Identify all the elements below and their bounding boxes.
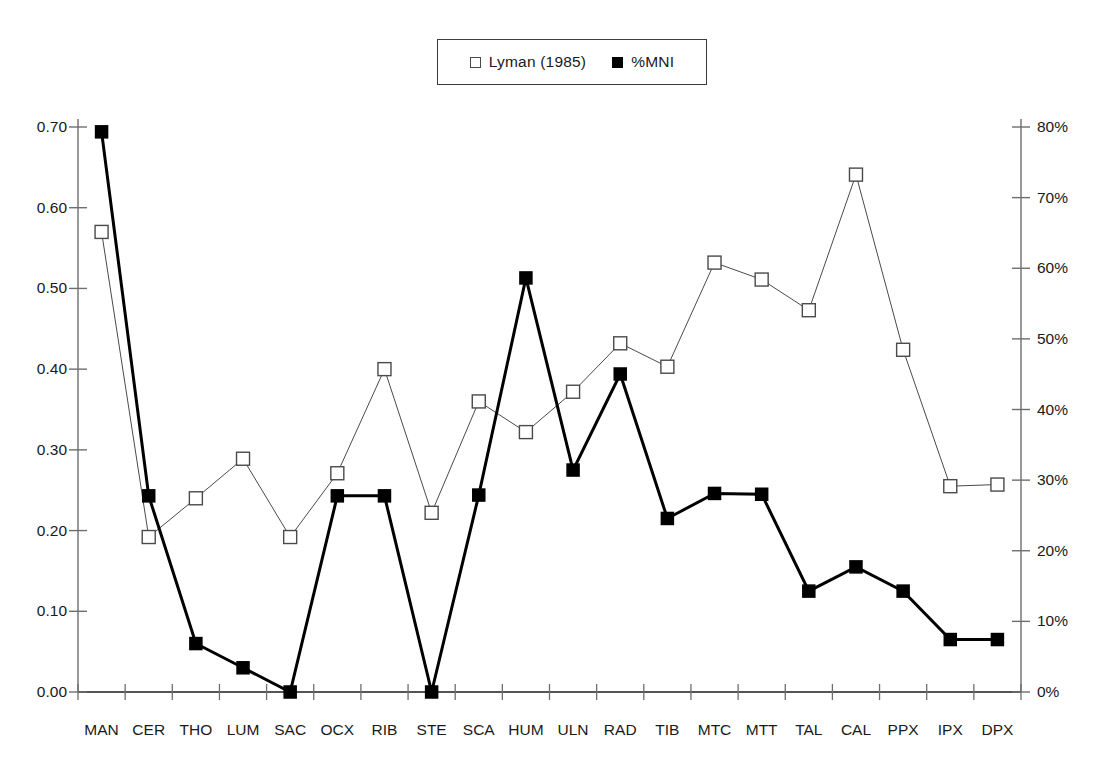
y-axis-right-ticklabel: 20% [1037, 543, 1097, 559]
filled-square-marker [331, 490, 343, 502]
y-axis-right-ticklabel: 0% [1037, 684, 1097, 700]
y-axis-right-ticklabel: 80% [1037, 119, 1097, 135]
open-square-marker [802, 304, 815, 317]
filled-square-marker [661, 512, 673, 524]
filled-square-marker [284, 686, 296, 698]
open-square-marker [425, 506, 438, 519]
series-layer [95, 126, 1004, 698]
filled-square-marker [991, 634, 1003, 646]
y-axis-left-ticklabel: 0.60 [5, 200, 67, 216]
y-axis-right-ticklabel: 30% [1037, 472, 1097, 488]
filled-square-marker [426, 686, 438, 698]
open-square-marker [661, 360, 674, 373]
filled-square-marker [756, 488, 768, 500]
open-square-marker [378, 363, 391, 376]
open-square-marker [284, 531, 297, 544]
plot-area [0, 0, 1105, 769]
open-square-marker [849, 168, 862, 181]
open-square-marker [567, 385, 580, 398]
open-square-marker [331, 467, 344, 480]
y-axis-left-ticklabel: 0.30 [5, 442, 67, 458]
open-square-marker [95, 225, 108, 238]
filled-square-marker [473, 489, 485, 501]
open-square-marker [897, 343, 910, 356]
open-square-marker [614, 337, 627, 350]
open-square-marker [944, 480, 957, 493]
open-square-marker [755, 273, 768, 286]
filled-square-marker [614, 368, 626, 380]
filled-square-marker [897, 585, 909, 597]
filled-square-marker [567, 464, 579, 476]
y-axis-left-ticklabel: 0.70 [5, 119, 67, 135]
chart-root: Lyman (1985) %MNI 0.000.100.200.300.400.… [0, 0, 1105, 769]
y-axis-right-ticklabel: 60% [1037, 260, 1097, 276]
open-square-marker [472, 395, 485, 408]
filled-square-marker [143, 490, 155, 502]
x-axis-category-label: DPX [969, 722, 1025, 738]
y-axis-right-ticklabel: 40% [1037, 402, 1097, 418]
filled-square-marker [944, 634, 956, 646]
series-lyman [95, 168, 1004, 543]
filled-square-marker [709, 487, 721, 499]
filled-square-marker [378, 490, 390, 502]
filled-square-marker [96, 126, 108, 138]
filled-square-marker [520, 272, 532, 284]
y-axis-left-ticklabel: 0.10 [5, 603, 67, 619]
y-axis-right-ticklabel: 70% [1037, 190, 1097, 206]
filled-square-marker [237, 662, 249, 674]
plot-svg [0, 0, 1105, 769]
y-axis-left-ticklabel: 0.50 [5, 280, 67, 296]
open-square-marker [237, 452, 250, 465]
open-square-marker [189, 492, 202, 505]
series-line [102, 175, 998, 537]
y-axis-right-ticklabel: 10% [1037, 613, 1097, 629]
y-axis-right-ticklabel: 50% [1037, 331, 1097, 347]
axis-layer [69, 119, 1030, 700]
open-square-marker [142, 531, 155, 544]
y-axis-left-ticklabel: 0.00 [5, 684, 67, 700]
open-square-marker [519, 426, 532, 439]
filled-square-marker [190, 638, 202, 650]
open-square-marker [991, 478, 1004, 491]
y-axis-left-ticklabel: 0.40 [5, 361, 67, 377]
y-axis-left-ticklabel: 0.20 [5, 523, 67, 539]
filled-square-marker [803, 585, 815, 597]
open-square-marker [708, 256, 721, 269]
filled-square-marker [850, 561, 862, 573]
